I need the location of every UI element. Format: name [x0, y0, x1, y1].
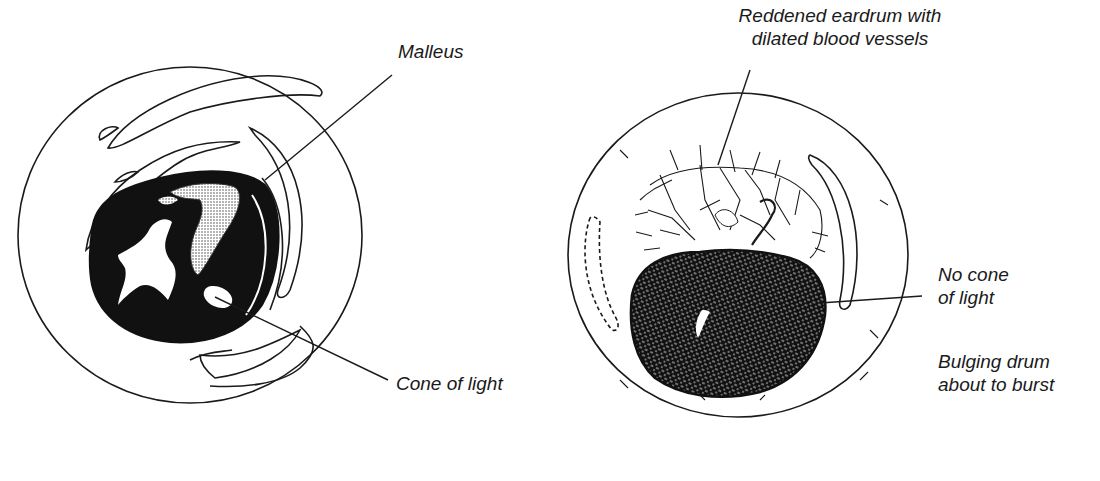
reddened-eardrum-label-line2: dilated blood vessels	[700, 27, 980, 50]
malleus-label: Malleus	[398, 40, 463, 63]
malleus-leader-line	[265, 75, 392, 180]
bulging-label-line1: Bulging drum	[938, 350, 1054, 373]
no-cone-label-line2: of light	[938, 286, 1009, 309]
reddened-eardrum-label: Reddened eardrum with dilated blood vess…	[700, 4, 980, 50]
no-cone-leader-line	[820, 296, 922, 303]
bulging-drum-label: Bulging drum about to burst	[938, 350, 1054, 396]
cone-of-light-label: Cone of light	[396, 372, 503, 395]
bulging-drum-shape	[631, 250, 826, 397]
reddened-leader-line	[718, 70, 750, 165]
reddened-eardrum-label-line1: Reddened eardrum with	[700, 4, 980, 27]
no-cone-of-light-label: No cone of light	[938, 263, 1009, 309]
eardrum-diagram: Malleus Cone of light Reddened eardrum w…	[0, 0, 1100, 481]
bulging-label-line2: about to burst	[938, 373, 1054, 396]
no-cone-label-line1: No cone	[938, 263, 1009, 286]
